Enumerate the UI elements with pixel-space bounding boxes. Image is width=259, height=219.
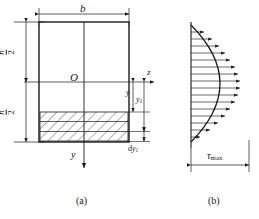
label-origin-O: O: [70, 72, 78, 83]
figure-vector-graphics: [0, 0, 259, 219]
label-z-axis: z: [147, 68, 151, 77]
label-h-over-2-lower: h 2: [0, 110, 16, 115]
caption-a: (a): [76, 196, 87, 206]
caption-b: (b): [208, 196, 220, 206]
label-tau-max: τmax: [207, 151, 222, 162]
stress-arrows: [191, 32, 240, 137]
label-y-axis: y: [71, 150, 75, 160]
label-y1: y1: [136, 96, 142, 105]
figure-container: b h 2 h 2 O z y y y1 dy1 τmax (a) (b): [0, 0, 259, 219]
label-dy1: dy1: [128, 145, 138, 154]
parabola-outline: [191, 25, 220, 142]
label-coordinate-y: y: [126, 89, 130, 97]
label-h-over-2-upper: h 2: [0, 50, 16, 55]
label-width-b: b: [80, 3, 86, 14]
